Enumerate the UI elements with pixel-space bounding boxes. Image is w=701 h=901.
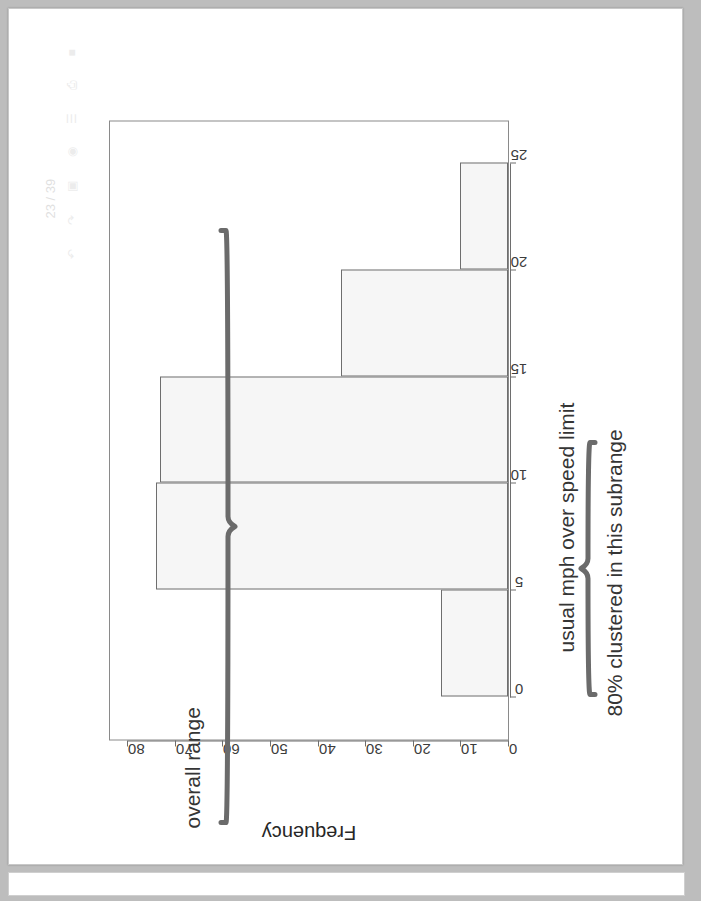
annotation-overall-range-label: overall range bbox=[181, 707, 205, 828]
histogram-bar bbox=[341, 269, 508, 376]
slide-canvas: 01020304050607080 Frequency 0510152025 o… bbox=[21, 15, 671, 858]
x-axis-line bbox=[510, 163, 511, 697]
histogram-plot: 01020304050607080 Frequency 0510152025 bbox=[109, 120, 509, 740]
annotation-subrange-label: 80% clustered in this subrange bbox=[603, 429, 627, 716]
y-axis-tick-label: 30 bbox=[366, 741, 383, 758]
x-axis-title: usual mph over speed limit bbox=[555, 402, 579, 652]
x-axis-tick-label: 5 bbox=[514, 573, 522, 590]
histogram-bar bbox=[460, 162, 508, 269]
y-axis-title: Frequency bbox=[261, 821, 356, 844]
y-axis-tick-label: 80 bbox=[128, 741, 145, 758]
page-indicator: 23 / 39 bbox=[43, 178, 58, 218]
subrange-brace bbox=[577, 438, 599, 698]
next-page-strip bbox=[8, 872, 685, 896]
x-axis-tick-label: 10 bbox=[510, 466, 527, 483]
y-axis: 01020304050607080 bbox=[109, 740, 509, 782]
histogram-bar bbox=[155, 482, 507, 589]
histogram-bar bbox=[160, 376, 508, 483]
y-axis-tick bbox=[317, 740, 318, 746]
overall-range-brace bbox=[217, 226, 239, 826]
x-axis-tick-label: 25 bbox=[510, 146, 527, 163]
y-axis-tick-label: 10 bbox=[461, 741, 478, 758]
x-axis-tick-label: 0 bbox=[514, 680, 522, 697]
plot-frame bbox=[109, 120, 509, 740]
y-axis-tick-label: 50 bbox=[270, 741, 287, 758]
histogram-bar bbox=[441, 589, 508, 696]
document-page: 01020304050607080 Frequency 0510152025 o… bbox=[8, 8, 683, 865]
x-axis-tick-label: 20 bbox=[510, 253, 527, 270]
y-axis-tick-label: 20 bbox=[413, 741, 430, 758]
y-axis-tick-label: 0 bbox=[509, 741, 517, 758]
x-axis-tick-label: 15 bbox=[510, 360, 527, 377]
x-axis: 0510152025 bbox=[510, 120, 550, 740]
screenshot-root: 01020304050607080 Frequency 0510152025 o… bbox=[0, 0, 701, 901]
y-axis-tick-label: 40 bbox=[318, 741, 335, 758]
viewer-toolbar-icons: ↶ ↷ ▣ ◉ ☰ ⎙ ■ bbox=[65, 39, 79, 258]
